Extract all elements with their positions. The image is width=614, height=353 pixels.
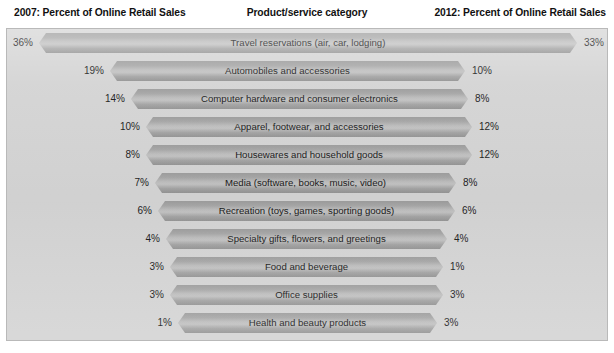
category-label: Health and beauty products: [178, 313, 437, 333]
value-label-2007: 19%: [54, 61, 104, 81]
category-bar: Office supplies: [170, 285, 443, 305]
chart-row: 10%Apparel, footwear, and accessories12%: [7, 117, 608, 137]
value-label-2007: 1%: [122, 313, 172, 333]
category-bar: Apparel, footwear, and accessories: [146, 117, 472, 137]
category-label: Apparel, footwear, and accessories: [146, 117, 472, 137]
category-label: Automobiles and accessories: [110, 61, 465, 81]
category-label: Housewares and household goods: [146, 145, 472, 165]
value-label-2007: 7%: [99, 173, 149, 193]
value-label-2007: 36%: [6, 33, 33, 53]
value-label-2012: 1%: [450, 257, 500, 277]
value-label-2012: 12%: [479, 117, 529, 137]
chart-row: 7%Media (software, books, music, video)8…: [7, 173, 608, 193]
category-label: Computer hardware and consumer electroni…: [131, 89, 468, 109]
header-label-2012: 2012: Percent of Online Retail Sales: [434, 7, 606, 18]
value-label-2012: 8%: [475, 89, 525, 109]
value-label-2012: 10%: [472, 61, 522, 81]
category-label: Recreation (toys, games, sporting goods): [158, 201, 455, 221]
chart-row: 1%Health and beauty products3%: [7, 313, 608, 333]
value-label-2007: 10%: [90, 117, 140, 137]
chart-row: 4%Specialty gifts, flowers, and greeting…: [7, 229, 608, 249]
chart-row: 8%Housewares and household goods12%: [7, 145, 608, 165]
category-bar: Housewares and household goods: [146, 145, 472, 165]
category-bar: Specialty gifts, flowers, and greetings: [166, 229, 447, 249]
chart-row: 6%Recreation (toys, games, sporting good…: [7, 201, 608, 221]
value-label-2012: 12%: [479, 145, 529, 165]
chart-row: 3%Office supplies3%: [7, 285, 608, 305]
chart-row: 3%Food and beverage1%: [7, 257, 608, 277]
chart-plot-area: 36%Travel reservations (air, car, lodgin…: [6, 28, 608, 341]
value-label-2007: 4%: [110, 229, 160, 249]
category-bar: Recreation (toys, games, sporting goods): [158, 201, 455, 221]
value-label-2012: 3%: [444, 313, 494, 333]
category-bar: Computer hardware and consumer electroni…: [131, 89, 468, 109]
category-label: Travel reservations (air, car, lodging): [39, 33, 577, 53]
category-label: Food and beverage: [170, 257, 443, 277]
chart-container: 2007: Percent of Online Retail Sales Pro…: [0, 0, 614, 353]
value-label-2012: 3%: [450, 285, 500, 305]
category-label: Media (software, books, music, video): [155, 173, 456, 193]
category-label: Specialty gifts, flowers, and greetings: [166, 229, 447, 249]
category-bar: Health and beauty products: [178, 313, 437, 333]
value-label-2007: 14%: [75, 89, 125, 109]
value-label-2012: 8%: [463, 173, 513, 193]
chart-row: 36%Travel reservations (air, car, lodgin…: [7, 33, 608, 53]
value-label-2007: 3%: [114, 285, 164, 305]
value-label-2012: 33%: [584, 33, 608, 53]
value-label-2012: 4%: [454, 229, 504, 249]
value-label-2012: 6%: [462, 201, 512, 221]
value-label-2007: 6%: [102, 201, 152, 221]
category-bar: Automobiles and accessories: [110, 61, 465, 81]
value-label-2007: 8%: [90, 145, 140, 165]
category-bar: Media (software, books, music, video): [155, 173, 456, 193]
chart-row: 14%Computer hardware and consumer electr…: [7, 89, 608, 109]
category-label: Office supplies: [170, 285, 443, 305]
value-label-2007: 3%: [114, 257, 164, 277]
category-bar: Travel reservations (air, car, lodging): [39, 33, 577, 53]
chart-header: 2007: Percent of Online Retail Sales Pro…: [0, 0, 614, 28]
category-bar: Food and beverage: [170, 257, 443, 277]
chart-row: 19%Automobiles and accessories10%: [7, 61, 608, 81]
